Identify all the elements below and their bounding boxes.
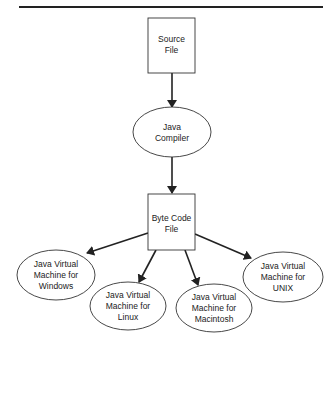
node-jvm-macintosh-line2: Machine for bbox=[192, 303, 237, 313]
node-jvm-macintosh: Java Virtual Machine for Macintosh bbox=[176, 284, 252, 332]
node-jvm-linux-line2: Machine for bbox=[106, 301, 151, 311]
node-source-file-line1: Source bbox=[158, 34, 185, 44]
node-jvm-windows-line1: Java Virtual bbox=[34, 259, 78, 269]
edge-bytecode-to-mac bbox=[185, 250, 198, 285]
node-byte-code-file-line2: File bbox=[165, 224, 179, 234]
node-java-compiler: Java Compiler bbox=[133, 107, 211, 157]
node-jvm-windows: Java Virtual Machine for Windows bbox=[17, 250, 95, 300]
flow-diagram: Source File Java Compiler Byte Code File… bbox=[0, 0, 332, 405]
node-jvm-linux-line1: Java Virtual bbox=[106, 290, 150, 300]
node-jvm-windows-line3: Windows bbox=[39, 281, 73, 291]
node-jvm-unix-line1: Java Virtual bbox=[261, 261, 305, 271]
node-byte-code-file: Byte Code File bbox=[148, 194, 195, 250]
node-source-file-line2: File bbox=[165, 45, 179, 55]
node-jvm-macintosh-line1: Java Virtual bbox=[192, 292, 236, 302]
node-jvm-unix-line3: UNIX bbox=[273, 283, 294, 293]
node-jvm-linux: Java Virtual Machine for Linux bbox=[90, 282, 166, 330]
node-java-compiler-line1: Java bbox=[163, 122, 181, 132]
node-java-compiler-line2: Compiler bbox=[155, 133, 189, 143]
edge-bytecode-to-linux bbox=[139, 250, 156, 282]
edge-bytecode-to-unix bbox=[195, 234, 251, 258]
node-jvm-unix-line2: Machine for bbox=[261, 272, 306, 282]
node-jvm-linux-line3: Linux bbox=[118, 312, 139, 322]
node-source-file: Source File bbox=[148, 18, 195, 73]
node-jvm-macintosh-line3: Macintosh bbox=[195, 314, 234, 324]
node-jvm-unix: Java Virtual Machine for UNIX bbox=[243, 252, 323, 302]
node-jvm-windows-line2: Machine for bbox=[34, 270, 79, 280]
edges bbox=[87, 73, 251, 285]
edge-bytecode-to-windows bbox=[87, 233, 148, 253]
node-byte-code-file-line1: Byte Code bbox=[152, 213, 192, 223]
